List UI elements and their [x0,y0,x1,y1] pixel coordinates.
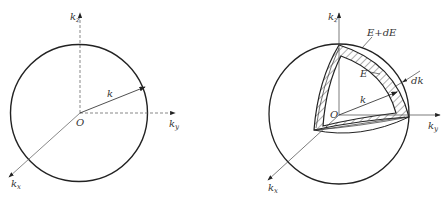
dk-label: dk [411,75,423,86]
ky-label-left: ky [169,118,180,131]
kz-label-left: kz [70,11,80,24]
origin-label-left: O [76,117,84,128]
k-label-right: k [360,94,366,105]
kx-axis-right [268,115,339,180]
kx-axis-left [9,113,80,177]
e-plus-de-leader [362,37,372,48]
origin-label-right: O [330,109,338,120]
right-figure: kz ky kx O k E+dE E dk [268,11,440,195]
left-figure: kz ky kx O k [9,11,180,191]
ky-label-right: ky [428,120,439,133]
e-plus-de-label: E+dE [366,27,397,38]
e-label: E [359,68,368,79]
kx-label-right: kx [268,182,278,195]
k-label-left: k [107,88,113,99]
kx-label-left: kx [11,178,21,191]
kz-label-right: kz [328,11,338,24]
diagram-canvas: kz ky kx O k kz ky kx O k E+dE E [0,0,443,200]
